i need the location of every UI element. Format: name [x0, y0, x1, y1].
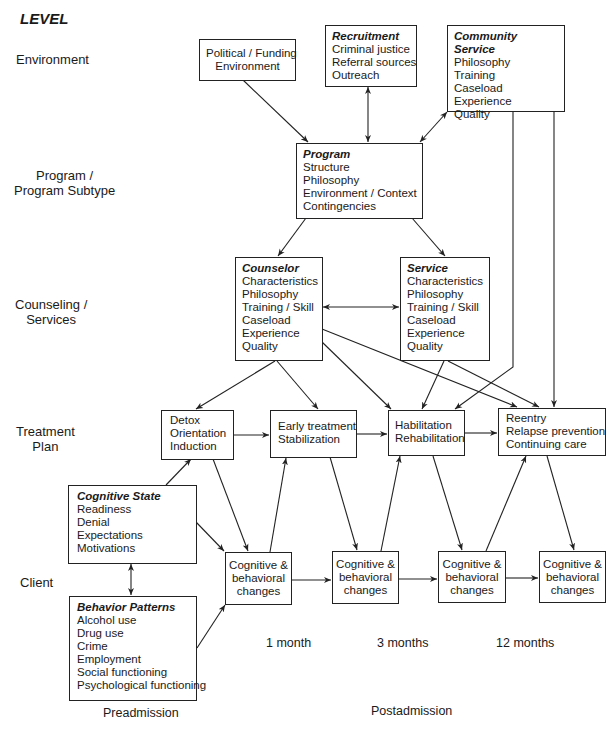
box-title: Counselor [242, 262, 316, 275]
level-heading: LEVEL [20, 10, 68, 27]
box-detox: Detox Orientation Induction [161, 410, 234, 460]
box-habilitation: Habilitation Rehabilitation [388, 410, 465, 456]
box-line: Experience [242, 327, 316, 340]
box-line: Referral sources [332, 56, 410, 69]
box-line: Philosophy [303, 174, 416, 187]
phase-label-preadmission: Preadmission [103, 706, 179, 720]
box-program: Program Structure Philosophy Environment… [296, 143, 423, 219]
box-line: behavioral [542, 571, 603, 584]
box-line: behavioral [335, 571, 396, 584]
box-line: changes [228, 585, 289, 598]
box-title: Community Service [454, 30, 558, 56]
box-line: Social functioning [77, 666, 189, 679]
time-label-12-months: 12 months [496, 636, 554, 650]
box-line: Orientation [170, 427, 225, 440]
level-treatment-plan: Treatment Plan [16, 424, 75, 454]
box-line: Psychological functioning [77, 679, 189, 692]
box-line: Relapse prevention [506, 425, 598, 438]
phase-label-postadmission: Postadmission [371, 704, 452, 718]
level-environment: Environment [16, 52, 89, 67]
box-line: Habilitation [395, 419, 458, 432]
box-title: Service [407, 262, 483, 275]
time-label-1-month: 1 month [266, 636, 311, 650]
box-line: Environment [206, 60, 289, 73]
box-cb-changes-1: Cognitive & behavioral changes [225, 552, 292, 605]
box-line: Reentry [506, 412, 598, 425]
box-line: Induction [170, 440, 225, 453]
box-line: Early treatment [278, 420, 349, 433]
box-line: Expectations [77, 529, 188, 542]
box-line: Characteristics [242, 275, 316, 288]
box-reentry: Reentry Relapse prevention Continuing ca… [498, 408, 606, 456]
box-line: changes [335, 584, 396, 597]
box-line: Alcohol use [77, 614, 189, 627]
box-line: Training / Skill [242, 301, 316, 314]
box-line: changes [542, 584, 603, 597]
box-line: Rehabilitation [395, 432, 458, 445]
box-cb-changes-4: Cognitive & behavioral changes [539, 551, 606, 603]
time-label-3-months: 3 months [377, 636, 428, 650]
box-line: Philosophy [242, 288, 316, 301]
box-counselor: Counselor Characteristics Philosophy Tra… [235, 257, 323, 361]
box-line: Caseload [242, 314, 316, 327]
box-line: Quality [242, 340, 316, 353]
box-line: Caseload [454, 82, 558, 95]
box-line: Detox [170, 414, 225, 427]
box-line: Characteristics [407, 275, 483, 288]
box-line: Structure [303, 161, 416, 174]
box-line: Readiness [77, 503, 188, 516]
box-line: Cognitive & [335, 558, 396, 571]
box-line: Training / Skill [407, 301, 483, 314]
box-title: Recruitment [332, 30, 410, 43]
box-recruitment: Recruitment Criminal justice Referral so… [325, 25, 417, 87]
box-behavior-patterns: Behavior Patterns Alcohol use Drug use C… [69, 596, 197, 701]
box-cognitive-state: Cognitive State Readiness Denial Expecta… [68, 485, 197, 564]
box-cb-changes-2: Cognitive & behavioral changes [332, 551, 399, 604]
box-line: behavioral [441, 571, 503, 584]
box-line: Employment [77, 653, 189, 666]
box-cb-changes-3: Cognitive & behavioral changes [438, 551, 506, 603]
box-line: Quality [454, 108, 558, 121]
box-line: Crime [77, 640, 189, 653]
box-line: Experience [454, 95, 558, 108]
box-early-treatment: Early treatment Stabilization [270, 410, 357, 458]
level-client: Client [20, 575, 53, 590]
box-title: Cognitive State [77, 490, 188, 503]
box-line: Cognitive & [542, 558, 603, 571]
box-line: Criminal justice [332, 43, 410, 56]
box-title: Behavior Patterns [77, 601, 189, 614]
box-line: Quality [407, 340, 483, 353]
box-political-funding: Political / Funding Environment [199, 39, 296, 81]
box-line: Continuing care [506, 438, 598, 451]
box-line: behavioral [228, 572, 289, 585]
box-line: Experience [407, 327, 483, 340]
box-line: Training [454, 69, 558, 82]
box-line: Drug use [77, 627, 189, 640]
box-line: Caseload [407, 314, 483, 327]
box-line: Political / Funding [206, 47, 289, 60]
level-counseling-services: Counseling / Services [15, 297, 87, 327]
box-line: Stabilization [278, 433, 349, 446]
level-program: Program / Program Subtype [14, 168, 115, 198]
box-line: Contingencies [303, 200, 416, 213]
box-title: Program [303, 148, 416, 161]
box-line: Philosophy [407, 288, 483, 301]
box-service: Service Characteristics Philosophy Train… [400, 257, 490, 361]
box-line: Philosophy [454, 56, 558, 69]
box-community-service: Community Service Philosophy Training Ca… [447, 25, 565, 112]
box-line: Cognitive & [228, 559, 289, 572]
box-line: Environment / Context [303, 187, 416, 200]
box-line: Outreach [332, 69, 410, 82]
box-line: Cognitive & [441, 558, 503, 571]
box-line: changes [441, 584, 503, 597]
box-line: Denial [77, 516, 188, 529]
box-line: Motivations [77, 542, 188, 555]
